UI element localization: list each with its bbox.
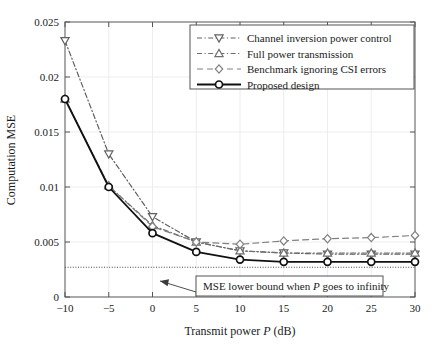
y-tick-label: 0.01 bbox=[40, 181, 59, 193]
data-point-circle bbox=[193, 248, 200, 255]
x-tick-label: −10 bbox=[56, 302, 74, 314]
data-point-diamond bbox=[236, 240, 243, 248]
data-point-circle bbox=[149, 230, 156, 237]
data-point-triangle-down bbox=[61, 38, 69, 45]
svg-text:MSE lower bound when P goes to: MSE lower bound when P goes to infinity bbox=[203, 280, 390, 292]
x-tick-label: 10 bbox=[235, 302, 247, 314]
x-tick-label: 30 bbox=[410, 302, 422, 314]
data-point-circle bbox=[237, 256, 244, 263]
data-point-diamond bbox=[368, 234, 375, 242]
annotation-box: MSE lower bound when P goes to infinity bbox=[196, 276, 390, 296]
mse-vs-transmit-power-chart: −10−5051015202530 00.0050.010.0150.020.0… bbox=[0, 0, 432, 351]
x-tick-label: 5 bbox=[194, 302, 200, 314]
y-tick-label: 0.005 bbox=[34, 236, 59, 248]
legend-label: Full power transmission bbox=[247, 48, 354, 60]
data-point-circle bbox=[280, 258, 287, 265]
legend-label: Channel inversion power control bbox=[247, 32, 392, 44]
x-tick-label: 20 bbox=[322, 302, 334, 314]
x-axis-tick-labels: −10−5051015202530 bbox=[56, 302, 421, 314]
data-point-circle bbox=[412, 258, 419, 265]
x-tick-label: 0 bbox=[150, 302, 156, 314]
data-point-circle bbox=[62, 96, 69, 103]
x-tick-label: −5 bbox=[103, 302, 115, 314]
data-point-circle bbox=[324, 258, 331, 265]
data-point-triangle-down bbox=[105, 151, 113, 158]
x-axis-title: Transmit power P (dB) bbox=[184, 324, 295, 338]
y-tick-label: 0.015 bbox=[34, 126, 59, 138]
data-point-circle bbox=[216, 81, 223, 88]
data-point-diamond bbox=[324, 235, 331, 243]
y-tick-label: 0.025 bbox=[34, 16, 59, 28]
annotation-arrow bbox=[160, 279, 196, 292]
data-point-diamond bbox=[411, 231, 418, 239]
y-tick-label: 0 bbox=[54, 291, 60, 303]
annotation-text-prefix: MSE lower bound when bbox=[203, 280, 313, 292]
data-point-diamond bbox=[280, 237, 287, 245]
legend-label: Proposed design bbox=[247, 79, 320, 91]
data-point-triangle-down bbox=[148, 214, 156, 221]
legend-label: Benchmark ignoring CSI errors bbox=[247, 63, 386, 75]
y-tick-label: 0.02 bbox=[40, 71, 59, 83]
figure-container: −10−5051015202530 00.0050.010.0150.020.0… bbox=[0, 0, 432, 351]
legend: Channel inversion power controlFull powe… bbox=[190, 25, 414, 91]
y-axis-title: Computation MSE bbox=[4, 115, 18, 205]
annotation-text-suffix: goes to infinity bbox=[320, 280, 390, 292]
y-axis-tick-labels: 00.0050.010.0150.020.025 bbox=[34, 16, 59, 303]
x-tick-label: 25 bbox=[366, 302, 378, 314]
data-point-circle bbox=[105, 184, 112, 191]
data-point-circle bbox=[368, 258, 375, 265]
x-tick-label: 15 bbox=[278, 302, 290, 314]
